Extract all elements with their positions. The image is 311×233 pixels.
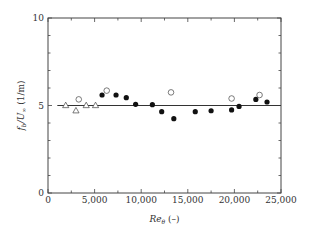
open-circle-marker: [104, 88, 110, 94]
filled-circle-marker: [253, 97, 258, 102]
open-circle-marker: [257, 92, 263, 98]
filled-circle-marker: [99, 92, 104, 97]
x-tick-label: 0: [45, 195, 51, 205]
open-triangle-marker: [73, 107, 79, 113]
x-tick-label: 15,000: [172, 195, 204, 205]
x-tick-label: 10,000: [125, 195, 157, 205]
filled-circle-marker: [236, 104, 241, 109]
chart: 05,00010,00015,00020,00025,0000510 Reθ (…: [0, 0, 311, 233]
data-points: [63, 88, 270, 121]
filled-circle-marker: [159, 109, 164, 114]
x-tick-label: 20,000: [219, 195, 251, 205]
filled-circle-marker: [193, 109, 198, 114]
y-tick-label: 5: [38, 101, 44, 111]
y-label-unit: (1/m): [16, 81, 26, 108]
open-circle-marker: [229, 96, 235, 102]
x-label-main: Re: [148, 214, 161, 224]
open-triangle-marker: [92, 102, 98, 108]
y-axis-label: fb/U∞ (1/m): [16, 81, 27, 132]
open-triangle-marker: [63, 102, 69, 108]
open-circle-marker: [76, 97, 82, 103]
y-label-u: /U: [16, 112, 26, 124]
y-tick-label: 10: [33, 13, 45, 23]
y-tick-label: 0: [38, 188, 44, 198]
filled-circle-marker: [209, 108, 214, 113]
x-axis-label: Reθ (–): [148, 214, 179, 225]
filled-circle-marker: [171, 116, 176, 121]
filled-circle-marker: [124, 95, 129, 100]
x-label-unit: (–): [165, 214, 179, 224]
filled-circle-marker: [264, 99, 269, 104]
filled-circle-marker: [133, 102, 138, 107]
open-circle-marker: [168, 90, 174, 96]
filled-circle-marker: [150, 102, 155, 107]
filled-circle-marker: [113, 92, 118, 97]
tick-labels: 05,00010,00015,00020,00025,0000510: [33, 13, 297, 205]
x-tick-label: 5,000: [82, 195, 108, 205]
x-tick-label: 25,000: [265, 195, 297, 205]
open-triangle-marker: [83, 102, 89, 108]
filled-circle-marker: [229, 107, 234, 112]
